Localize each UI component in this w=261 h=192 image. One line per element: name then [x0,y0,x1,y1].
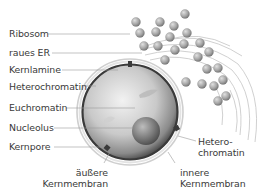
label-innere-line1: innere [180,167,246,178]
label-aeussere-kernmembran: äußere Kernmembran [40,167,108,189]
label-hetero-line2: chromatin [198,147,245,158]
nuclear-pore [128,61,132,67]
label-hetero-line1: Hetero- [198,136,245,147]
label-innere-line2: Kernmembran [180,178,246,189]
label-nucleolus: Nucleolus [9,122,54,133]
nucleolus [132,117,160,145]
label-aeussere-line2: Kernmembran [40,178,108,189]
label-ribosom: Ribosom [9,28,49,39]
label-kernpore: Kernpore [9,141,50,152]
label-euchromatin: Euchromatin [9,102,67,113]
label-aeussere-line1: äußere [40,167,108,178]
label-heterochromatin: Heterochromatin [9,81,87,92]
label-hetero-chromatin-right: Hetero- chromatin [198,136,245,158]
label-kernlamine: Kernlamine [9,64,61,75]
label-raues-er: raues ER [9,47,50,58]
label-innere-kernmembran: innere Kernmembran [180,167,246,189]
